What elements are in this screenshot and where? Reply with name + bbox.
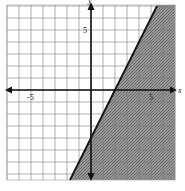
x-tick-label-neg5: -5	[27, 93, 34, 102]
inequality-graph: x y -5 5 5	[0, 0, 185, 191]
y-tick-label-5: 5	[83, 26, 87, 35]
x-axis-label: x	[177, 86, 182, 95]
x-tick-label-5: 5	[149, 93, 153, 102]
y-axis-label: y	[87, 0, 92, 5]
